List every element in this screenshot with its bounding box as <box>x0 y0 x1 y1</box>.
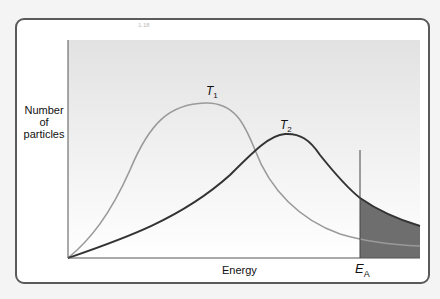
ea-label: EA <box>355 261 370 279</box>
x-axis-label: Energy <box>222 264 257 276</box>
t1-label: T1 <box>206 84 218 100</box>
t2-label: T2 <box>280 118 292 134</box>
y-axis-label: Number of particles <box>14 104 74 140</box>
distribution-chart <box>0 0 440 299</box>
